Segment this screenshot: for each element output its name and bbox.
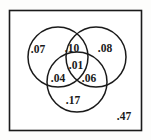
region-label-c-only: .17 — [66, 94, 81, 106]
region-label-a-b-and-c: .01 — [69, 59, 84, 71]
region-label-b-only: .08 — [98, 42, 113, 54]
region-label-a-and-b: .10 — [65, 42, 80, 54]
region-label-outside: .47 — [117, 110, 132, 122]
region-label-a-only: .07 — [31, 43, 46, 55]
region-label-a-and-c: .04 — [51, 72, 66, 84]
venn-diagram-figure: .07 .10 .08 .01 .04 .06 .17 .47 — [0, 0, 151, 140]
region-label-b-and-c: .06 — [82, 72, 97, 84]
venn-diagram-canvas: .07 .10 .08 .01 .04 .06 .17 .47 — [0, 0, 151, 140]
